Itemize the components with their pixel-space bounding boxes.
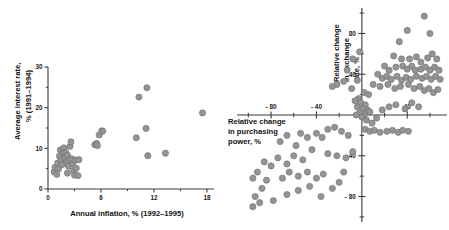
- data-point: [284, 161, 290, 167]
- right-y-tick-label: - 80: [345, 193, 356, 200]
- data-point: [411, 85, 417, 91]
- data-point: [313, 130, 319, 136]
- data-point: [353, 112, 359, 118]
- data-point: [334, 153, 340, 159]
- data-point: [319, 134, 325, 140]
- data-point: [343, 155, 349, 161]
- left-x-axis-title: Annual inflation, % (1992–1995): [70, 209, 184, 218]
- left-y-tick-label: 10: [35, 145, 43, 152]
- data-point: [332, 124, 338, 130]
- data-point: [421, 13, 427, 19]
- data-point: [416, 104, 422, 110]
- data-point: [363, 117, 369, 123]
- data-point: [94, 142, 100, 148]
- data-point: [254, 169, 260, 175]
- data-point: [397, 83, 403, 89]
- data-point: [336, 179, 342, 185]
- left-plot-area: 0612180102030: [35, 63, 214, 201]
- data-point: [250, 175, 256, 181]
- data-point: [341, 169, 347, 175]
- data-point: [76, 157, 82, 163]
- left-x-tick-label: 18: [203, 194, 211, 201]
- data-point: [345, 132, 351, 138]
- data-point: [429, 51, 435, 57]
- data-point: [356, 49, 362, 55]
- data-point: [300, 157, 306, 163]
- data-point: [434, 56, 440, 62]
- left-scatter-svg: Average interest rate, % (1991–1994) Ann…: [0, 0, 225, 230]
- data-point: [143, 125, 149, 131]
- data-point: [377, 129, 383, 135]
- left-scatter-panel: Average interest rate, % (1991–1994) Ann…: [0, 0, 225, 230]
- data-point: [304, 169, 310, 175]
- data-point: [405, 128, 411, 134]
- data-point: [369, 120, 375, 126]
- data-point: [96, 132, 102, 138]
- left-y-tick-label: 20: [35, 104, 43, 111]
- right-x-axis-title-line2: in purchasing: [228, 127, 278, 136]
- data-point: [352, 98, 358, 104]
- left-x-tick-label: 6: [99, 194, 103, 201]
- data-point: [304, 134, 310, 140]
- data-point: [199, 110, 205, 116]
- left-x-tick-label: 12: [150, 194, 158, 201]
- data-point: [409, 100, 415, 106]
- data-point: [366, 92, 372, 98]
- data-point: [252, 193, 258, 199]
- data-point: [400, 127, 406, 133]
- left-y-axis-title-line1: Average interest rate,: [13, 63, 22, 140]
- data-point: [386, 104, 392, 110]
- data-point: [412, 67, 418, 73]
- data-point: [398, 56, 404, 62]
- right-scatter-svg: Relative change in exchange rate, % Rela…: [225, 0, 449, 230]
- data-point: [418, 59, 424, 65]
- right-x-tick-label: - 80: [266, 103, 277, 110]
- data-point: [344, 67, 350, 73]
- data-point: [386, 67, 392, 73]
- left-y-axis-title-line2: % (1991–1994): [24, 70, 33, 122]
- data-point: [257, 200, 263, 206]
- data-point: [329, 83, 335, 89]
- data-point: [396, 39, 402, 45]
- data-point: [250, 204, 256, 210]
- right-scatter-panel: Relative change in exchange rate, % Rela…: [225, 0, 449, 230]
- data-point: [379, 107, 385, 113]
- data-point: [73, 165, 79, 171]
- left-y-tick-label: 30: [35, 63, 43, 70]
- data-point: [136, 94, 142, 100]
- data-point: [325, 151, 331, 157]
- data-point: [377, 83, 383, 89]
- data-point: [393, 64, 399, 70]
- right-x-tick-label: - 40: [311, 103, 322, 110]
- data-point: [350, 56, 356, 62]
- data-point: [259, 185, 265, 191]
- data-point: [413, 73, 419, 79]
- data-point: [275, 155, 281, 161]
- data-point: [297, 130, 303, 136]
- data-point: [329, 185, 335, 191]
- data-point: [406, 56, 412, 62]
- data-point: [54, 171, 60, 177]
- data-point: [295, 173, 301, 179]
- data-point: [367, 109, 373, 115]
- data-point: [263, 177, 269, 183]
- data-point: [64, 170, 70, 176]
- data-point: [413, 54, 419, 60]
- data-point: [354, 77, 360, 83]
- data-point: [391, 53, 397, 59]
- data-point: [404, 27, 410, 33]
- data-point: [268, 163, 274, 169]
- data-point: [270, 198, 276, 204]
- data-point: [349, 85, 355, 91]
- data-point: [405, 81, 411, 87]
- data-point: [350, 149, 356, 155]
- data-point: [392, 85, 398, 91]
- right-y-axis-title-line1: Relative change: [332, 24, 341, 82]
- data-point: [293, 142, 299, 148]
- data-point: [374, 115, 380, 121]
- data-point: [291, 153, 297, 159]
- right-y-tick-label: 80: [349, 30, 357, 37]
- data-point: [427, 30, 433, 36]
- left-x-tick-label: 0: [46, 194, 50, 201]
- data-point: [370, 81, 376, 87]
